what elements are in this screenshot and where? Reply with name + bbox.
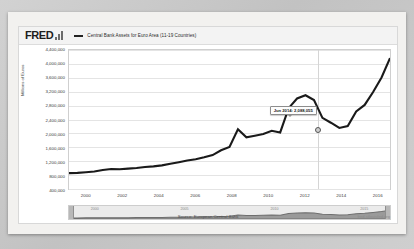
y-tick-label: 4,400,000: [45, 47, 65, 52]
x-axis-ticks: 200020022004200620082010201220142016: [68, 192, 391, 204]
y-tick-label: 400,000: [49, 188, 65, 193]
fred-logo[interactable]: FRED: [25, 30, 53, 41]
y-tick-label: 2,000,000: [45, 131, 65, 136]
y-tick-label: 3,600,000: [45, 75, 65, 80]
chart-header: FRED Central Bank Assets for Euro Area (…: [19, 27, 397, 45]
y-axis-label: Millions of Euros: [20, 64, 25, 96]
plot-area: Millions of Euros 4,400,0004,000,0003,60…: [19, 44, 397, 204]
x-tick-label: 2008: [227, 193, 237, 198]
y-tick-label: 2,800,000: [45, 103, 65, 108]
x-tick-label: 2002: [117, 193, 127, 198]
gridline: [69, 189, 390, 190]
navigator-tick-label: 2015: [360, 207, 368, 211]
legend-color-swatch: [74, 35, 83, 37]
y-tick-label: 4,000,000: [45, 61, 65, 66]
annotation-marker-dot: [315, 127, 321, 133]
y-tick-label: 3,200,000: [45, 89, 65, 94]
fred-attribution[interactable]: fred.stlouisfed.org: [357, 214, 390, 219]
source-label: Source: European Central Bank: [19, 214, 397, 219]
y-tick-label: 800,000: [49, 173, 65, 178]
series-line-chart: [69, 50, 390, 189]
screenshot-frame: FRED Central Bank Assets for Euro Area (…: [8, 12, 406, 234]
fred-chart-card: FRED Central Bank Assets for Euro Area (…: [18, 26, 398, 224]
y-axis-ticks: 4,400,0004,000,0003,600,0003,200,0002,80…: [27, 44, 67, 204]
y-tick-label: 2,400,000: [45, 117, 65, 122]
x-tick-label: 2010: [263, 193, 273, 198]
x-tick-label: 2006: [190, 193, 200, 198]
navigator-tick-label: 2000: [91, 207, 99, 211]
legend-series-label: Central Bank Assets for Euro Area (11-19…: [87, 33, 196, 38]
x-tick-label: 2012: [300, 193, 310, 198]
bar-chart-mark-icon: [55, 31, 65, 40]
x-tick-label: 2014: [336, 193, 346, 198]
x-tick-label: 2000: [81, 193, 91, 198]
x-tick-label: 2016: [373, 193, 383, 198]
data-tooltip: Jun 2014: 2,088,055: [270, 106, 317, 115]
chart-legend[interactable]: Central Bank Assets for Euro Area (11-19…: [74, 33, 196, 38]
y-tick-label: 1,200,000: [45, 159, 65, 164]
y-tick-label: 1,600,000: [45, 145, 65, 150]
x-tick-label: 2004: [154, 193, 164, 198]
navigator-tick-label: 2005: [181, 207, 189, 211]
plot-grid[interactable]: Jun 2014: 2,088,055: [68, 49, 391, 190]
chart-footer: Source: European Central Bank fred.stlou…: [19, 213, 397, 223]
navigator-tick-label: 2010: [270, 207, 278, 211]
